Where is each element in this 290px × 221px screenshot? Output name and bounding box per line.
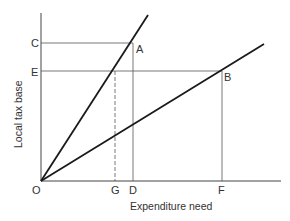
shallow-line (41, 44, 264, 181)
label-O: O (32, 184, 41, 196)
label-C: C (31, 37, 39, 49)
label-B: B (224, 71, 231, 83)
label-G: G (111, 184, 120, 196)
y-axis-title: Local tax base (12, 80, 24, 148)
label-D: D (129, 184, 137, 196)
tax-base-diagram: C E A B O G D F Expenditure need Local t… (0, 0, 290, 221)
label-A: A (136, 43, 144, 55)
x-axis-title: Expenditure need (130, 200, 212, 212)
label-E: E (31, 66, 38, 78)
steep-line (41, 15, 148, 181)
label-F: F (218, 184, 225, 196)
